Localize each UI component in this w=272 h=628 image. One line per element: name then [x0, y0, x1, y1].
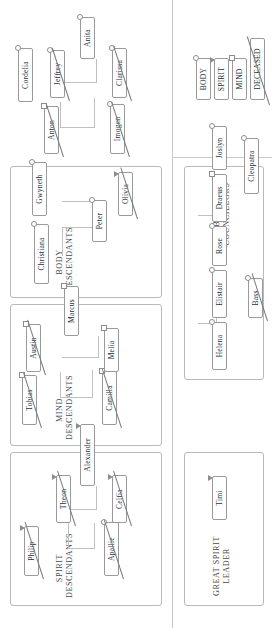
node-helena[interactable]: Helena: [212, 322, 227, 370]
panel-title-mind-descendants: MIND DESCENDANTS: [55, 380, 75, 440]
panel-title-spirit-descendants: SPIRIT DESCENDANTS: [55, 538, 75, 598]
mind-marker-icon: [229, 55, 235, 61]
body-marker-icon: [89, 197, 95, 203]
legend-item-mind: MIND: [232, 58, 247, 100]
node-label-alexander: Alexander: [83, 438, 92, 471]
node-label-melia: Melia: [107, 341, 116, 360]
node-philip[interactable]: Philip: [24, 526, 39, 576]
node-draeus[interactable]: Draeus: [212, 174, 227, 222]
body-marker-icon: [15, 45, 21, 51]
node-bass[interactable]: Bass: [248, 278, 263, 318]
node-label-cleopatra: Cleopatra: [247, 150, 256, 181]
link-peter-down: [62, 227, 94, 228]
link-anton-imogen: [60, 127, 94, 128]
link-camilla-down: [60, 397, 92, 398]
node-olivia[interactable]: Olivia: [118, 172, 133, 216]
node-austin[interactable]: Austin: [26, 324, 41, 372]
node-anita[interactable]: Anita: [80, 17, 95, 59]
link-philip-apallie: [68, 523, 69, 549]
legend-label-body: BODY: [199, 68, 208, 90]
node-clarissa[interactable]: Clarissa: [112, 48, 127, 98]
node-label-rose: Rose: [215, 238, 224, 254]
node-label-helena: Helena: [215, 335, 224, 358]
node-theon[interactable]: Theon: [56, 475, 71, 523]
mind-marker-icon: [101, 325, 107, 331]
link-austin-melia: [62, 357, 98, 358]
link-anton-cordelia: [60, 102, 61, 128]
node-anton[interactable]: Anton: [44, 106, 59, 154]
node-timi[interactable]: Timi: [212, 476, 227, 520]
mind-marker-icon: [61, 283, 67, 289]
link-camilla-tobias: [60, 372, 61, 398]
panel-title-great-spirit-leader: GREAT SPIRIT LEADER: [212, 532, 232, 600]
body-marker-icon: [245, 275, 251, 281]
node-jeffrey[interactable]: Jeffrey: [50, 50, 65, 98]
body-marker-icon: [209, 267, 215, 273]
node-camilla[interactable]: Camilla: [102, 371, 117, 425]
node-label-draeus: Draeus: [215, 187, 224, 210]
body-marker-icon: [241, 135, 247, 141]
node-peter[interactable]: Peter: [92, 200, 107, 242]
body-marker-icon: [209, 123, 215, 129]
deceased-strike-icon: [247, 36, 270, 105]
spirit-marker-icon: [52, 474, 57, 480]
node-label-anita: Anita: [83, 29, 92, 47]
link-philip-down: [68, 548, 94, 549]
legend-item-spirit: SPIRIT: [214, 58, 229, 100]
legend-item-deceased: DECEASED: [250, 38, 265, 100]
node-imogen[interactable]: Imogen: [110, 104, 125, 154]
rotated-layer: SPIRIT DESCENDANTS MIND DESCENDANTS BODY…: [0, 0, 272, 628]
legend-label-spirit: SPIRIT: [217, 67, 226, 91]
node-melia[interactable]: Melia: [104, 328, 119, 372]
node-marcus[interactable]: Marcus: [64, 286, 79, 336]
node-christiana[interactable]: Christiana: [34, 224, 49, 284]
link-jeffrey-anita: [96, 59, 97, 83]
body-marker-icon: [209, 223, 215, 229]
node-label-gwyneth: Gwyneth: [35, 174, 44, 203]
node-rose[interactable]: Rose: [212, 226, 227, 266]
node-joslyn[interactable]: Joslyn: [212, 126, 227, 170]
node-label-timi: Timi: [215, 490, 224, 505]
spirit-marker-icon: [108, 474, 113, 480]
link-austin-marcus: [98, 336, 99, 358]
node-apallie[interactable]: Apallie: [104, 522, 119, 576]
legend-item-body: BODY: [196, 58, 211, 100]
link-theon-alexander: [96, 486, 97, 510]
link-couple-to-theon: [94, 523, 95, 549]
band-divider-main: [172, 0, 173, 628]
node-label-christiana: Christiana: [37, 237, 46, 270]
node-elistair[interactable]: Elistair: [212, 270, 227, 318]
spirit-marker-icon: [208, 475, 213, 481]
node-alexander[interactable]: Alexander: [80, 424, 95, 486]
body-marker-icon: [209, 319, 215, 325]
body-marker-icon: [77, 14, 83, 20]
spirit-marker-icon: [76, 423, 81, 429]
legend-label-mind: MIND: [235, 68, 244, 89]
body-marker-icon: [193, 55, 199, 61]
link-imogen-clarissa: [94, 98, 95, 128]
spirit-marker-icon: [114, 171, 119, 177]
node-tobias[interactable]: Tobias: [22, 375, 37, 425]
spirit-marker-icon: [210, 57, 215, 63]
node-label-marcus: Marcus: [67, 299, 76, 323]
mind-marker-icon: [209, 171, 215, 177]
node-label-cordelia: Cordelia: [21, 61, 30, 89]
node-label-peter: Peter: [95, 213, 104, 230]
link-christiana-peter: [62, 228, 63, 256]
node-label-elistair: Elistair: [215, 282, 224, 306]
diagram-canvas: SPIRIT DESCENDANTS MIND DESCENDANTS BODY…: [0, 0, 272, 628]
node-celfia[interactable]: Celfia: [112, 475, 127, 523]
node-label-joslyn: Joslyn: [215, 138, 224, 159]
node-gwyneth[interactable]: Gwyneth: [32, 162, 47, 216]
body-marker-icon: [29, 159, 35, 165]
spirit-marker-icon: [20, 525, 25, 531]
node-cleopatra[interactable]: Cleopatra: [244, 138, 259, 194]
link-couple-to-austin: [92, 370, 93, 398]
body-marker-icon: [31, 221, 37, 227]
node-cordelia[interactable]: Cordelia: [18, 48, 33, 102]
